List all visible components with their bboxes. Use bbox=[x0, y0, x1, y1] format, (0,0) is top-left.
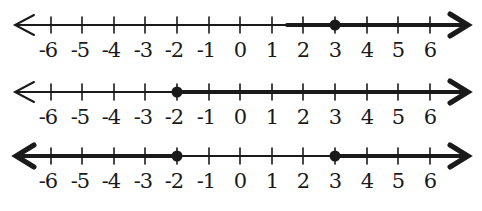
tick-label: 2 bbox=[297, 171, 309, 192]
tick-label: 3 bbox=[329, 40, 341, 61]
tick-label: -5 bbox=[71, 40, 89, 61]
tick-label: -1 bbox=[197, 40, 215, 61]
number-line-1: -6 -5 -4 -3 -2 -1 0 1 2 3 4 5 6 bbox=[0, 0, 482, 66]
closed-point-neg2 bbox=[172, 87, 183, 98]
tick-label: 5 bbox=[392, 107, 404, 128]
tick-label: -3 bbox=[134, 40, 152, 61]
tick-label: -2 bbox=[165, 171, 183, 192]
tick-label: 4 bbox=[361, 107, 373, 128]
tick-label: -4 bbox=[102, 40, 120, 61]
tick-label: -6 bbox=[39, 40, 57, 61]
tick-label: -4 bbox=[102, 171, 120, 192]
tick-label: 6 bbox=[424, 171, 436, 192]
tick-label: -3 bbox=[134, 107, 152, 128]
tick-label: -1 bbox=[197, 107, 215, 128]
tick-label: 1 bbox=[266, 171, 278, 192]
tick-label: -2 bbox=[165, 107, 183, 128]
tick-label: 6 bbox=[424, 40, 436, 61]
tick-label: 5 bbox=[392, 40, 404, 61]
tick-label: 2 bbox=[297, 107, 309, 128]
tick-label: -4 bbox=[102, 107, 120, 128]
tick-label: 0 bbox=[234, 40, 246, 61]
tick-label: 5 bbox=[392, 171, 404, 192]
tick-label: 0 bbox=[234, 107, 246, 128]
tick-label: 4 bbox=[361, 40, 373, 61]
tick-label: 4 bbox=[361, 171, 373, 192]
tick-label: -6 bbox=[39, 171, 57, 192]
tick-label: 6 bbox=[424, 107, 436, 128]
tick-label: 0 bbox=[234, 171, 246, 192]
tick-label: -5 bbox=[71, 171, 89, 192]
closed-point-neg2 bbox=[172, 151, 183, 162]
closed-point-3 bbox=[330, 151, 341, 162]
tick-label: -3 bbox=[134, 171, 152, 192]
closed-point-3 bbox=[330, 20, 341, 31]
number-line-2: -6 -5 -4 -3 -2 -1 0 1 2 3 4 5 6 bbox=[0, 67, 482, 133]
tick-label: 1 bbox=[266, 40, 278, 61]
tick-label: 3 bbox=[329, 171, 341, 192]
tick-label: -5 bbox=[71, 107, 89, 128]
tick-label: 2 bbox=[297, 40, 309, 61]
tick-label: 3 bbox=[329, 107, 341, 128]
tick-label: -6 bbox=[39, 107, 57, 128]
tick-label: -2 bbox=[165, 40, 183, 61]
number-line-3: -6 -5 -4 -3 -2 -1 0 1 2 3 4 5 6 bbox=[0, 131, 482, 197]
tick-label: -1 bbox=[197, 171, 215, 192]
tick-label: 1 bbox=[266, 107, 278, 128]
